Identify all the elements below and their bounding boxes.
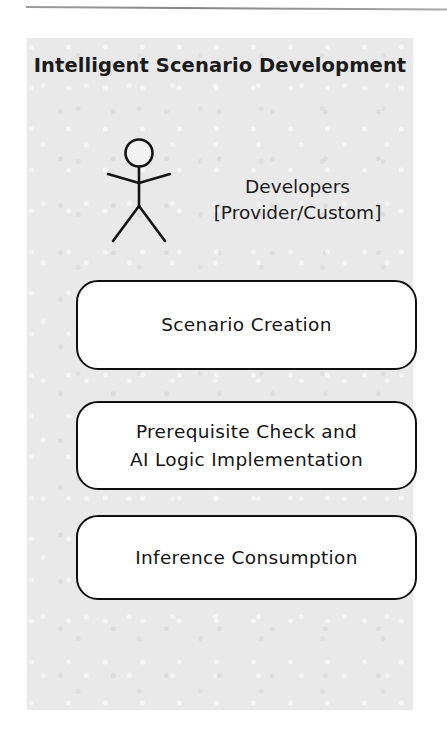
- use-case-label-line-1: Scenario Creation: [161, 311, 332, 339]
- actor-label-line-1: Developers: [190, 174, 405, 200]
- use-case-label: Prerequisite Check and AI Logic Implemen…: [130, 418, 363, 474]
- actor-stick-figure-icon: [100, 136, 186, 244]
- use-case-label: Inference Consumption: [135, 544, 358, 572]
- use-case-scenario-creation[interactable]: Scenario Creation: [76, 280, 417, 370]
- use-case-prerequisite-check-ai-logic[interactable]: Prerequisite Check and AI Logic Implemen…: [76, 401, 417, 490]
- uml-package-container: Intelligent Scenario Development Develop…: [27, 38, 413, 710]
- actor-label-line-2: [Provider/Custom]: [190, 200, 405, 226]
- page-top-rule: [26, 6, 447, 11]
- package-title: Intelligent Scenario Development: [27, 54, 413, 77]
- use-case-inference-consumption[interactable]: Inference Consumption: [76, 515, 417, 600]
- actor-label: Developers [Provider/Custom]: [190, 174, 405, 226]
- use-case-label-line-2: AI Logic Implementation: [130, 446, 363, 474]
- use-case-label: Scenario Creation: [161, 311, 332, 339]
- use-case-label-line-1: Inference Consumption: [135, 544, 358, 572]
- use-case-label-line-1: Prerequisite Check and: [130, 418, 363, 446]
